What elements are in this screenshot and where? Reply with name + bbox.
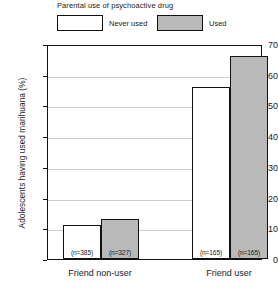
bar-friend-user-used: (n=165) xyxy=(230,56,268,259)
y-axis-title: Adolescents having used marihuana (%) xyxy=(17,37,27,269)
legend-title: Parental use of psychoactive drug xyxy=(57,1,173,10)
bar-sample-size: (n=327) xyxy=(102,249,138,256)
legend-label-used: Used xyxy=(209,19,227,28)
bar-friend-non-user-used: (n=327) xyxy=(101,219,139,259)
bar-sample-size: (n=165) xyxy=(231,249,267,256)
bar-friend-non-user-never-used: (n=385) xyxy=(63,225,101,259)
bar-sample-size: (n=165) xyxy=(193,249,229,256)
legend-swatch-used xyxy=(157,15,203,31)
legend-swatch-never-used xyxy=(57,15,103,31)
plot-area: (n=385)(n=327)(n=165)(n=165) xyxy=(47,45,262,260)
legend-label-never-used: Never used xyxy=(109,19,147,28)
bar-sample-size: (n=385) xyxy=(64,249,100,256)
y-tick-mark-0 xyxy=(43,260,47,261)
x-label-friend-user: Friend user xyxy=(206,268,252,278)
bar-friend-user-never-used: (n=165) xyxy=(192,87,230,259)
x-label-friend-non-user: Friend non-user xyxy=(68,268,132,278)
